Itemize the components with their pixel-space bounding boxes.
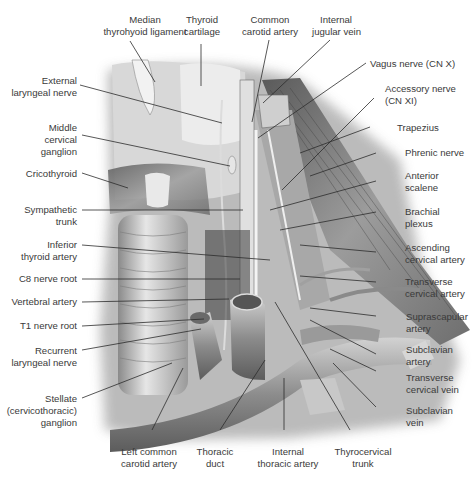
label-line: ganglion	[0, 417, 77, 429]
label-line: carotid artery	[110, 458, 188, 470]
label-line: Ascending	[405, 242, 465, 254]
label-brachial-plexus: Brachial plexus	[405, 206, 440, 230]
label-line: jugular vein	[312, 26, 361, 38]
label-line: (cervicothoracic)	[0, 405, 77, 417]
label-line: Common	[238, 14, 302, 26]
label-line: cervical artery	[405, 288, 465, 300]
label-internal-jugular-vein: Internal jugular vein	[312, 14, 361, 38]
label-line: plexus	[405, 218, 440, 230]
label-line: trunk	[0, 216, 77, 228]
label-line: T1 nerve root	[0, 320, 77, 332]
label-transverse-cervical-artery: Transverse cervical artery	[405, 276, 465, 300]
label-subclavian-vein: Subclavian vein	[406, 405, 453, 429]
label-line: cervical	[0, 134, 77, 146]
label-line: C8 nerve root	[0, 273, 77, 285]
label-middle-cervical-ganglion: Middle cervical ganglion	[0, 122, 77, 158]
label-vagus-nerve: Vagus nerve (CN X)	[370, 58, 455, 70]
label-line: laryngeal nerve	[0, 87, 77, 99]
label-line: cervical artery	[405, 254, 465, 266]
label-line: Brachial	[405, 206, 440, 218]
label-line: carotid artery	[238, 26, 302, 38]
label-line: Vertebral artery	[0, 296, 77, 308]
label-line: Stellate	[0, 393, 77, 405]
label-transverse-cervical-vein: Transverse cervical vein	[406, 372, 459, 396]
label-line: Middle	[0, 122, 77, 134]
label-line: Transverse	[406, 372, 459, 384]
label-line: thyrohyoid ligament	[95, 26, 195, 38]
label-line: Sympathetic	[0, 204, 77, 216]
label-line: laryngeal nerve	[0, 357, 77, 369]
label-line: thyroid artery	[0, 251, 77, 263]
label-left-common-carotid-artery: Left common carotid artery	[110, 446, 188, 470]
label-line: Internal	[250, 446, 326, 458]
label-cricothyroid: Cricothyroid	[0, 168, 77, 180]
label-line: trunk	[330, 458, 396, 470]
label-line: artery	[406, 356, 453, 368]
label-line: Accessory nerve	[385, 83, 456, 95]
label-thyroid-cartilage: Thyroid cartilage	[182, 14, 222, 38]
label-t1-nerve-root: T1 nerve root	[0, 320, 77, 332]
label-line: cartilage	[182, 26, 222, 38]
label-internal-thoracic-artery: Internal thoracic artery	[250, 446, 326, 470]
label-line: Thoracic	[192, 446, 238, 458]
label-sympathetic-trunk: Sympathetic trunk	[0, 204, 77, 228]
label-line: Thyrocervical	[330, 446, 396, 458]
label-line: Transverse	[405, 276, 465, 288]
label-line: Phrenic nerve	[405, 147, 464, 159]
label-ascending-cervical-artery: Ascending cervical artery	[405, 242, 465, 266]
label-line: Median	[95, 14, 195, 26]
label-line: Inferior	[0, 239, 77, 251]
label-line: Anterior	[405, 170, 439, 182]
label-line: vein	[406, 417, 453, 429]
label-line: Subclavian	[406, 344, 453, 356]
label-line: (CN XI)	[385, 95, 456, 107]
label-accessory-nerve: Accessory nerve (CN XI)	[385, 83, 456, 107]
anatomy-figure: Median thyrohyoid ligament Thyroid carti…	[0, 0, 474, 478]
label-line: Suprascapular	[406, 311, 468, 323]
label-line: thoracic artery	[250, 458, 326, 470]
label-line: scalene	[405, 182, 439, 194]
label-line: duct	[192, 458, 238, 470]
label-line: Cricothyroid	[0, 168, 77, 180]
label-vertebral-artery: Vertebral artery	[0, 296, 77, 308]
label-recurrent-laryngeal-nerve: Recurrent laryngeal nerve	[0, 345, 77, 369]
label-line: Trapezius	[397, 122, 439, 134]
label-anterior-scalene: Anterior scalene	[405, 170, 439, 194]
label-line: Recurrent	[0, 345, 77, 357]
label-line: ganglion	[0, 146, 77, 158]
label-line: Vagus nerve (CN X)	[370, 58, 455, 70]
label-line: Subclavian	[406, 405, 453, 417]
label-thoracic-duct: Thoracic duct	[192, 446, 238, 470]
label-line: artery	[406, 323, 468, 335]
label-stellate-ganglion: Stellate (cervicothoracic) ganglion	[0, 393, 77, 429]
label-subclavian-artery: Subclavian artery	[406, 344, 453, 368]
label-thyrocervical-trunk: Thyrocervical trunk	[330, 446, 396, 470]
label-suprascapular-artery: Suprascapular artery	[406, 311, 468, 335]
label-common-carotid-artery: Common carotid artery	[238, 14, 302, 38]
label-line: Internal	[312, 14, 361, 26]
label-external-laryngeal-nerve: External laryngeal nerve	[0, 75, 77, 99]
label-line: Thyroid	[182, 14, 222, 26]
label-inferior-thyroid-artery: Inferior thyroid artery	[0, 239, 77, 263]
label-line: cervical vein	[406, 384, 459, 396]
label-line: Left common	[110, 446, 188, 458]
label-median-thyrohyoid-ligament: Median thyrohyoid ligament	[95, 14, 195, 38]
label-trapezius: Trapezius	[397, 122, 439, 134]
label-line: External	[0, 75, 77, 87]
label-c8-nerve-root: C8 nerve root	[0, 273, 77, 285]
label-phrenic-nerve: Phrenic nerve	[405, 147, 464, 159]
